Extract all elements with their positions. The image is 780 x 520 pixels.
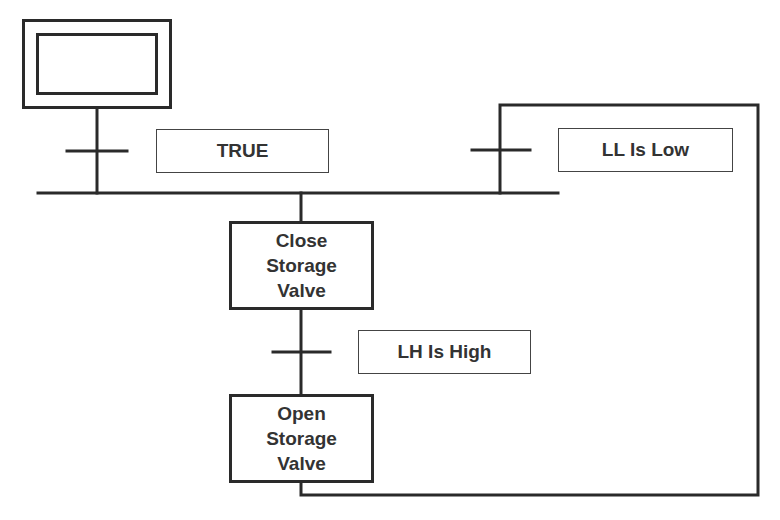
step-label: Close Storage Valve (266, 228, 337, 303)
transition-condition-true: TRUE (156, 129, 329, 173)
sfc-diagram: TRUE LL Is Low LH Is High Close Storage … (0, 0, 780, 520)
transition-condition-lh-high: LH Is High (358, 330, 531, 374)
initial-step-inner (36, 33, 158, 95)
step-close-storage-valve: Close Storage Valve (229, 221, 374, 310)
condition-label: LL Is Low (602, 139, 689, 161)
transition-condition-ll-low: LL Is Low (558, 128, 733, 172)
step-label: Open Storage Valve (266, 401, 337, 476)
condition-label: TRUE (217, 140, 269, 162)
condition-label: LH Is High (398, 341, 492, 363)
step-open-storage-valve: Open Storage Valve (229, 394, 374, 483)
